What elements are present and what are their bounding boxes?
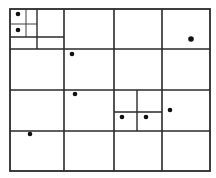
background (0, 0, 216, 178)
data-point (16, 28, 21, 33)
data-point (144, 115, 149, 120)
data-point (168, 108, 173, 113)
data-point (188, 36, 194, 42)
data-point (120, 115, 125, 120)
data-point (73, 92, 78, 97)
quadtree-diagram (0, 0, 216, 178)
data-point (70, 52, 75, 57)
data-point (28, 132, 33, 137)
data-point (16, 12, 21, 17)
